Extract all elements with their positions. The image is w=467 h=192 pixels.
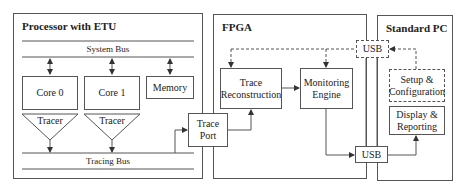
trace-port-line2: Port — [200, 130, 217, 142]
tracing-bus-label: Tracing Bus — [22, 156, 194, 166]
trace-port-line1: Trace — [197, 118, 219, 130]
trace-reconstruction-block: Trace Reconstruction — [220, 68, 282, 109]
monitoring-engine-block: Monitoring Engine — [300, 68, 353, 109]
tracer-1-label: Tracer — [84, 115, 140, 126]
usb-bottom-block: USB — [355, 146, 388, 163]
display-line1: Display & — [396, 109, 437, 121]
core-1-block: Core 1 — [84, 76, 140, 110]
architecture-diagram: Processor with ETU FPGA Standard PC — [0, 0, 467, 192]
monitoring-engine-line1: Monitoring — [304, 77, 350, 89]
system-bus-label: System Bus — [22, 44, 194, 54]
usb-bottom-label: USB — [362, 149, 381, 161]
setup-line1: Setup & — [400, 74, 433, 86]
setup-line2: Configuration — [389, 86, 445, 98]
usb-top-label: USB — [363, 43, 382, 55]
tracer-0-label: Tracer — [22, 115, 78, 126]
core-1-label: Core 1 — [99, 87, 126, 99]
display-line2: Reporting — [397, 121, 437, 133]
usb-top-block: USB — [356, 40, 389, 58]
core-0-label: Core 0 — [37, 87, 64, 99]
monitoring-engine-line2: Engine — [312, 89, 340, 101]
display-reporting-block: Display & Reporting — [389, 106, 445, 135]
memory-label: Memory — [153, 82, 187, 94]
core-0-block: Core 0 — [22, 76, 78, 110]
trace-reconstruction-line2: Reconstruction — [221, 89, 282, 101]
setup-configuration-block: Setup & Configuration — [389, 69, 445, 102]
memory-block: Memory — [146, 76, 194, 99]
trace-port-block: Trace Port — [188, 113, 228, 147]
trace-reconstruction-line1: Trace — [240, 77, 262, 89]
